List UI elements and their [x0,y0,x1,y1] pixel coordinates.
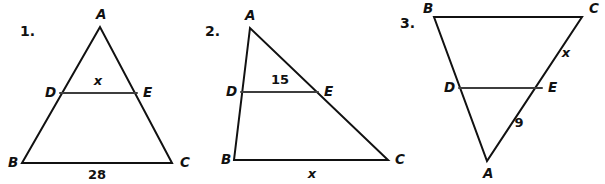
problem-1-measure-midsegment: x [93,73,103,88]
problem-3-vertex-label-c: C [589,0,599,16]
problem-1: 1. A B C D E x 28 [8,6,190,182]
problem-2-vertex-label-c: C [395,151,405,167]
problem-1-vertex-label-c: C [180,154,190,170]
problem-2-vertex-label-b: B [221,151,231,167]
problem-2-measure-midsegment: 15 [271,72,289,87]
problem-1-vertex-label-a: A [95,6,106,22]
problem-1-vertex-label-b: B [8,154,18,170]
problem-2-vertex-label-e: E [324,83,334,99]
problem-2-measure-base: x [307,166,317,181]
problem-3: 3. B C D E A x 9 [400,0,599,181]
problem-1-vertex-label-e: E [143,84,153,100]
problem-3-measure-side-ec: x [561,45,571,60]
geometry-worksheet: 1. A B C D E x 28 2. A B C D E 15 x 3. B… [0,0,605,184]
problem-2-vertex-label-a: A [244,7,255,23]
problem-3-vertex-label-d: D [444,79,455,95]
problem-number-1: 1. [20,23,35,39]
problem-3-vertex-label-a: A [482,165,493,181]
problem-3-vertex-label-e: E [548,79,558,95]
problem-3-measure-side-ae: 9 [514,115,523,130]
problem-number-3: 3. [400,15,415,31]
triangle-2-outline [234,28,388,160]
problem-3-vertex-label-b: B [423,0,433,16]
problem-2: 2. A B C D E 15 x [205,7,405,181]
problem-2-vertex-label-d: D [226,83,237,99]
problem-1-measure-base: 28 [88,167,106,182]
problem-1-vertex-label-d: D [45,84,56,100]
problem-number-2: 2. [205,23,220,39]
